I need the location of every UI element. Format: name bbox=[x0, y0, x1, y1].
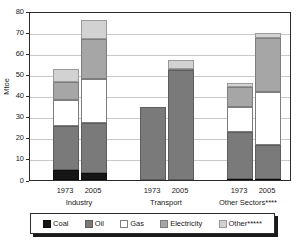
x-group-label-other-sectors: Other Sectors**** bbox=[198, 198, 298, 207]
segment-other bbox=[168, 60, 194, 68]
segment-other bbox=[53, 69, 79, 82]
segment-other bbox=[81, 20, 107, 39]
segment-gas bbox=[81, 79, 107, 123]
segment-oil bbox=[81, 123, 107, 173]
segment-oil bbox=[53, 126, 79, 170]
segment-oil bbox=[255, 145, 281, 179]
segment-other bbox=[255, 33, 281, 38]
x-tick-label-industry-2005: 2005 bbox=[73, 186, 113, 195]
legend-swatch-electricity-icon bbox=[160, 220, 168, 228]
legend-label-oil: Oil bbox=[95, 220, 104, 228]
gridline-60 bbox=[30, 55, 290, 56]
x-group-label-transport: Transport bbox=[126, 198, 206, 207]
segment-gas bbox=[255, 92, 281, 145]
segment-electricity bbox=[255, 38, 281, 92]
x-group-label-industry: Industry bbox=[39, 198, 119, 207]
y-tick-mark-0 bbox=[26, 181, 29, 182]
y-tick-label-70: 70 bbox=[2, 29, 24, 37]
legend-label-coal: Coal bbox=[53, 220, 68, 228]
legend-item-gas: Gas bbox=[120, 220, 144, 228]
legend-item-oil: Oil bbox=[85, 220, 104, 228]
segment-other bbox=[227, 83, 253, 87]
legend-swatch-coal-icon bbox=[43, 220, 51, 228]
legend-label-electricity: Electricity bbox=[170, 220, 202, 228]
segment-electricity bbox=[53, 82, 79, 100]
legend-swatch-gas-icon bbox=[120, 220, 128, 228]
segment-coal bbox=[81, 173, 107, 180]
segment-oil bbox=[227, 132, 253, 178]
y-tick-label-20: 20 bbox=[2, 134, 24, 142]
stacked-bar-chart: 80 70 60 50 40 30 20 10 0 Mtoe bbox=[0, 0, 299, 246]
legend-item-other: Other***** bbox=[219, 220, 262, 228]
legend-item-electricity: Electricity bbox=[160, 220, 202, 228]
segment-oil bbox=[140, 107, 166, 180]
plot-area bbox=[29, 12, 291, 181]
legend-label-gas: Gas bbox=[130, 220, 144, 228]
segment-gas bbox=[53, 100, 79, 126]
segment-oil bbox=[168, 70, 194, 180]
y-tick-label-80: 80 bbox=[2, 8, 24, 16]
legend-item-coal: Coal bbox=[43, 220, 68, 228]
segment-electricity bbox=[227, 87, 253, 107]
segment-coal bbox=[53, 170, 79, 180]
y-tick-label-10: 10 bbox=[2, 155, 24, 163]
gridline-70 bbox=[30, 34, 290, 35]
segment-gas bbox=[227, 107, 253, 132]
y-axis-title: Mtoe bbox=[2, 57, 11, 117]
segment-electricity bbox=[81, 39, 107, 79]
legend-label-other: Other***** bbox=[229, 220, 262, 228]
x-tick-label-transport-2005: 2005 bbox=[160, 186, 200, 195]
legend-swatch-other-icon bbox=[219, 220, 227, 228]
legend: Coal Oil Gas Electricity Other***** bbox=[30, 213, 275, 234]
y-tick-label-0: 0 bbox=[2, 177, 24, 185]
x-tick-label-other-sectors-2005: 2005 bbox=[247, 186, 287, 195]
legend-swatch-oil-icon bbox=[85, 220, 93, 228]
